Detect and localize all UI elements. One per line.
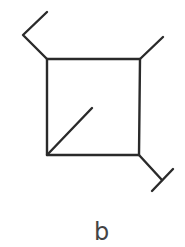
figure-caption: b (0, 218, 185, 246)
structure-diagram (0, 0, 185, 247)
inner-diagonal (47, 108, 92, 155)
top-right-arm (140, 37, 163, 59)
top-left-arm (23, 12, 47, 59)
bottom-right-arm (139, 155, 162, 180)
